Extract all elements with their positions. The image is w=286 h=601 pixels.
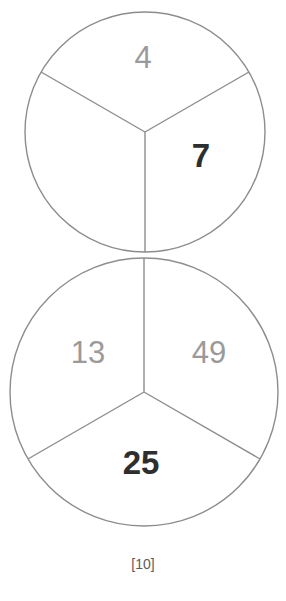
bottom-circle-sector-right-value: 49 xyxy=(192,337,226,368)
bottom-circle-sector-left-value: 13 xyxy=(71,337,105,368)
bottom-circle-spoke-lower-right xyxy=(144,392,260,459)
top-circle-sector-right-value: 7 xyxy=(192,139,210,172)
bottom-circle-sector-bottom-value: 25 xyxy=(123,446,160,479)
circles-diagram xyxy=(0,0,286,601)
top-circle-spoke-upper-right xyxy=(145,72,249,132)
page-caption: [10] xyxy=(0,557,286,571)
worksheet-page: 4 7 13 49 25 [10] xyxy=(0,0,286,601)
top-circle-sector-top-value: 4 xyxy=(134,42,151,73)
top-circle-spoke-upper-left xyxy=(41,72,145,132)
